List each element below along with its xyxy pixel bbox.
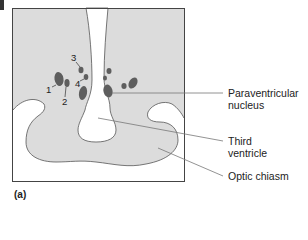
label-line: ventricle [228, 147, 267, 159]
label-line: Third [228, 135, 267, 147]
label-number-1: 1 [46, 84, 51, 95]
panel-label: (a) [14, 189, 26, 200]
label-line: Paraventricular [228, 87, 299, 99]
label-third-ventricle: Third ventricle [228, 135, 267, 159]
label-paraventricular-nucleus: Paraventricular nucleus [228, 87, 299, 111]
label-line: nucleus [228, 99, 299, 111]
label-number-3: 3 [71, 52, 76, 63]
label-number-2: 2 [62, 96, 67, 107]
label-number-4: 4 [75, 78, 80, 89]
label-optic-chiasm: Optic chiasm [228, 170, 289, 182]
